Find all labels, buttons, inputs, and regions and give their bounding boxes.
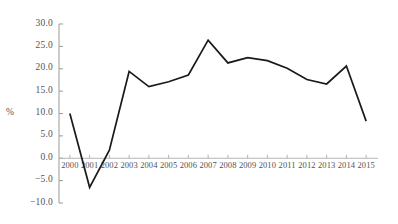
plot-area — [0, 0, 398, 224]
data-series-line — [70, 40, 366, 187]
line-chart: % 30.025.020.015.010.05.00.0−5.0−10.0 20… — [0, 0, 398, 224]
axis-group — [59, 24, 63, 203]
